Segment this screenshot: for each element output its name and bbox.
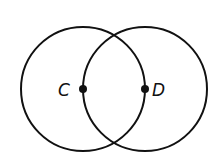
label-c: C: [58, 80, 70, 100]
point-d: [141, 85, 149, 93]
label-d: D: [152, 80, 165, 100]
point-c: [79, 85, 87, 93]
circles-diagram: C D: [0, 0, 210, 161]
